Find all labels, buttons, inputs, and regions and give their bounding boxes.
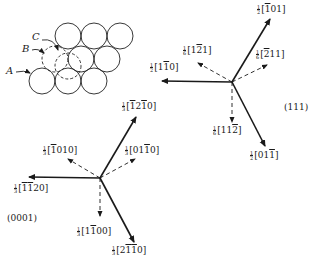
- diagram-canvas: [0, 0, 323, 266]
- fraction: 13: [77, 227, 80, 236]
- fraction: 16: [256, 50, 259, 59]
- vector-label-b2-1-10: 13[2110]: [112, 245, 146, 255]
- fraction: 16: [213, 126, 216, 135]
- vector-label-p1-100: 13[1100]: [77, 226, 111, 236]
- label-b: B: [22, 43, 29, 54]
- fraction: 13: [112, 246, 115, 255]
- fraction: 13: [14, 184, 17, 193]
- atom-a: [94, 46, 120, 72]
- atom-a: [55, 68, 81, 94]
- fraction: 13: [43, 146, 46, 155]
- fraction: 13: [122, 102, 125, 111]
- vector-label-p01-10: 13[0110]: [125, 145, 159, 155]
- vector-label-b-12-10: 13[1210]: [122, 101, 156, 111]
- fraction: 12: [250, 151, 253, 160]
- atom-a: [107, 23, 133, 49]
- vector-label-p11-2: 16[112]: [213, 125, 241, 135]
- vector-label-b-1-120: 13[1120]: [14, 183, 48, 193]
- fraction: 12: [150, 63, 153, 72]
- atom-b-dashed: [42, 46, 68, 72]
- fraction: 16: [183, 46, 186, 55]
- atom-a: [29, 68, 55, 94]
- label-c: C: [32, 31, 40, 42]
- hcp-0001-vectors: [29, 117, 136, 242]
- fraction: 12: [257, 5, 260, 14]
- vector-label-b1-10: 12[110]: [150, 62, 178, 72]
- atom-a: [81, 23, 107, 49]
- plane-label-0001: (0001): [7, 213, 37, 223]
- label-a: A: [6, 65, 13, 76]
- vector-label-p-211: 16[211]: [256, 49, 284, 59]
- vector-label-b-101: 12[101]: [257, 4, 285, 14]
- vector-label-p1-21: 16[121]: [183, 45, 211, 55]
- fraction: 13: [125, 146, 128, 155]
- atom-a: [81, 68, 107, 94]
- vector-label-p-1010: 13[1010]: [43, 145, 77, 155]
- atom-a: [55, 23, 81, 49]
- plane-label-111: (111): [284, 102, 308, 112]
- vector-label-b01-1: 12[011]: [250, 150, 278, 160]
